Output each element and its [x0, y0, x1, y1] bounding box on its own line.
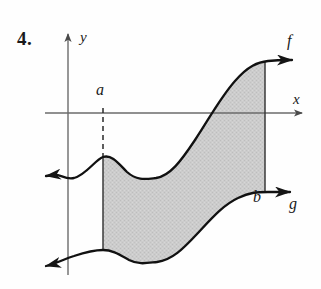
shaded-region-group [103, 61, 265, 263]
curve-f-left-arrow [46, 175, 54, 176]
curve-f-label: f [287, 33, 291, 49]
x-axis-label: x [293, 92, 300, 107]
curve-g-left-arrow [46, 264, 54, 266]
shaded-region-between-curves [103, 61, 265, 263]
figure-canvas: 4. y x a b f g [0, 0, 321, 289]
figure-graphic [0, 0, 321, 289]
problem-number-label: 4. [17, 29, 32, 48]
y-axis-label: y [80, 30, 87, 45]
curve-g-label: g [289, 196, 297, 212]
lower-bound-label-a: a [96, 82, 104, 98]
upper-bound-label-b: b [253, 189, 261, 205]
